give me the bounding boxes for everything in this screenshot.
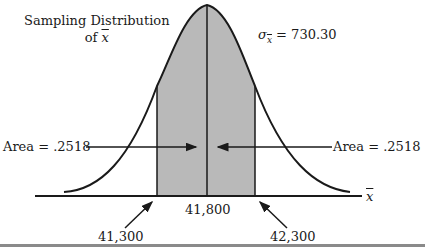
title-line-1: Sampling Distribution: [24, 12, 170, 29]
area-left-label: Area = .2518: [3, 140, 90, 153]
shaded-area: [157, 5, 255, 196]
lower-label-arrow: [125, 202, 152, 228]
standard-error-label: σx = 730.30: [258, 28, 337, 41]
diagram-title: Sampling Distribution of x: [24, 12, 170, 46]
sigma-symbol: σ: [258, 27, 267, 42]
area-right-label: Area = .2518: [333, 140, 420, 153]
sigma-subscript: x: [267, 35, 272, 45]
mean-label: 41,800: [185, 203, 231, 216]
sigma-value: = 730.30: [272, 27, 337, 42]
title-line-2: of x: [24, 29, 170, 46]
x-bar-symbol: x: [102, 30, 109, 45]
upper-bound-label: 42,300: [270, 230, 316, 243]
upper-label-arrow: [260, 202, 287, 228]
lower-bound-label: 41,300: [98, 230, 144, 243]
axis-variable-label: x: [366, 190, 373, 203]
